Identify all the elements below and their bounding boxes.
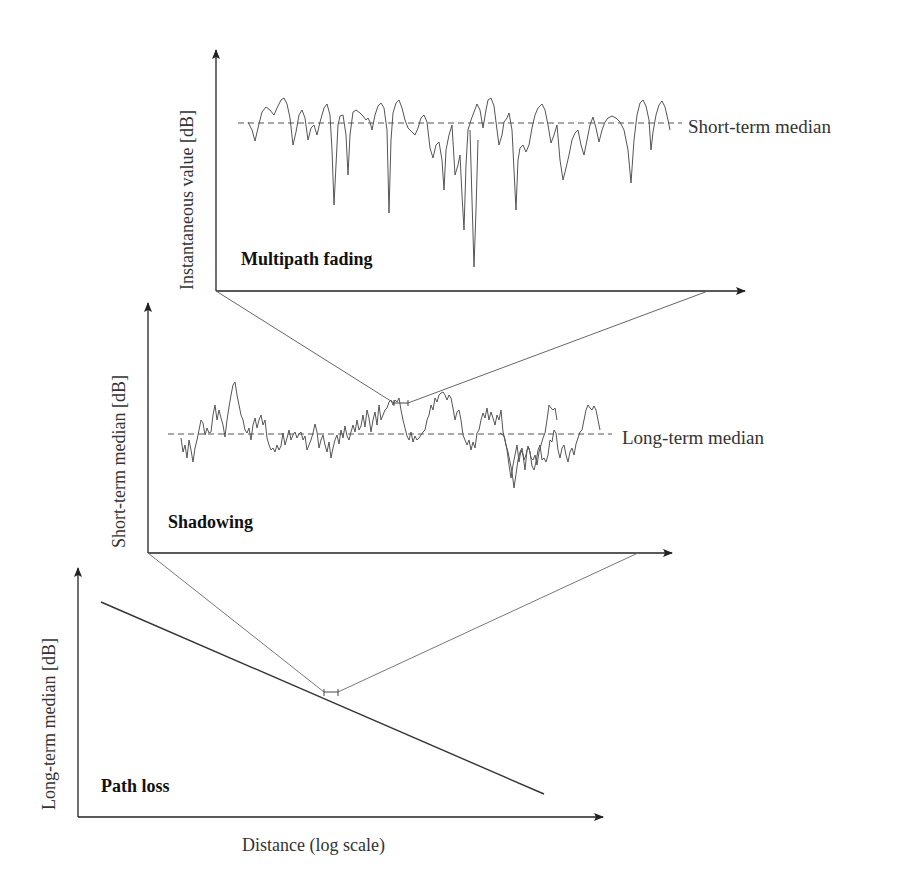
shadowing-signal: [181, 382, 557, 478]
long-term-median-label: Long-term median: [622, 427, 764, 448]
zoom-bracket-pathloss: [324, 689, 338, 696]
multipath-title: Multipath fading: [241, 249, 373, 269]
distance-x-label: Distance (log scale): [242, 835, 385, 856]
multipath-signal: [248, 98, 670, 230]
multipath-deep-fade: [470, 130, 478, 267]
pathloss-panel: Path loss Long-term median [dB] Distance…: [39, 568, 603, 856]
multipath-panel: Short-term median Multipath fading Insta…: [177, 50, 831, 291]
shadowing-panel: Long-term median Shadowing Short-term me…: [109, 303, 764, 553]
shadowing-title: Shadowing: [168, 512, 253, 532]
zoom-connector-shadowing: [148, 553, 638, 696]
path-loss-line: [101, 602, 544, 794]
shadowing-signal-continued: [500, 405, 600, 488]
three-level-fading-diagram: Short-term median Multipath fading Insta…: [0, 0, 907, 893]
pathloss-y-label: Long-term median [dB]: [39, 638, 59, 810]
zoom-connector-multipath: [216, 291, 708, 406]
short-term-median-label: Short-term median: [688, 116, 831, 137]
pathloss-title: Path loss: [101, 776, 170, 796]
shadowing-y-label: Short-term median [dB]: [109, 375, 129, 548]
multipath-y-label: Instantaneous value [dB]: [177, 110, 197, 290]
